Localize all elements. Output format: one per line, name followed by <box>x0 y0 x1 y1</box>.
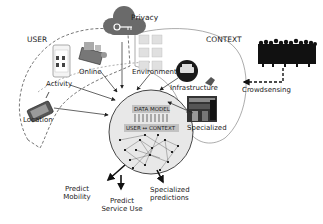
location-label: Location <box>23 116 53 124</box>
output-specialized-predictions: Specialized predictions <box>150 186 190 202</box>
online-services-icon <box>79 42 107 65</box>
infrastructure-label: Infrastructure <box>170 84 218 92</box>
environment-label: Environment <box>132 68 177 76</box>
car-infrastructure-icon <box>176 60 215 86</box>
specialized-label: Specialized <box>187 124 227 132</box>
data-model-title: DATA MODEL <box>134 105 170 113</box>
weather-grid-icon <box>139 35 162 70</box>
activity-label: Activity <box>46 80 72 88</box>
crowd-icon <box>258 39 317 67</box>
vacancies-board-icon <box>187 96 217 122</box>
output-predict-mobility: Predict Mobility <box>52 185 102 201</box>
crowdsensing-label: Crowdsensing <box>242 86 291 94</box>
context-region-label: CONTEXT <box>206 36 242 44</box>
data-model-subtitle: USER ↔ CONTEXT <box>126 124 175 132</box>
crowdsensing-arrow <box>244 68 283 82</box>
smartphone-activity-icon <box>53 45 70 77</box>
user-region-label: USER <box>27 36 47 44</box>
output-predict-service-use: Predict Service Use <box>96 197 148 213</box>
privacy-label: Privacy <box>131 14 158 22</box>
online-label: Online <box>79 68 102 76</box>
